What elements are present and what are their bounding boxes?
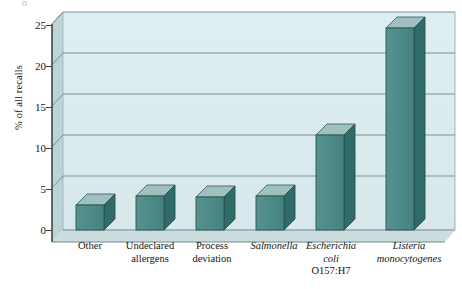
bar-escherichia-coli[interactable] xyxy=(316,124,355,230)
x-label-listeria-monocytogenes: Listeria monocytogenes xyxy=(356,240,462,265)
x-label-process-deviation-line2: deviation xyxy=(192,253,231,264)
x-label-listeria-monocytogenes-line2: monocytogenes xyxy=(377,253,442,264)
x-label-escherichia-coli-line1: Escherichia xyxy=(306,240,356,251)
x-label-process-deviation-line1: Process xyxy=(196,240,228,251)
bar-chart: o % of all recalls 25 20 15 10 5 0 xyxy=(0,0,462,289)
chart-left-wall xyxy=(52,12,63,242)
bar-other[interactable] xyxy=(76,194,115,230)
bar-process-deviation[interactable] xyxy=(196,186,235,230)
x-label-escherichia-coli-line2: coli xyxy=(323,253,339,264)
x-label-other-line1: Other xyxy=(78,240,102,251)
bar-listeria-monocytogenes[interactable] xyxy=(386,17,425,230)
x-label-undeclared-allergens-line2: allergens xyxy=(131,253,169,264)
bar-undeclared-allergens[interactable] xyxy=(136,185,175,230)
bar-salmonella[interactable] xyxy=(256,185,295,230)
x-label-listeria-monocytogenes-line1: Listeria xyxy=(393,240,426,251)
x-axis-labels: Other Undeclared allergens Process devia… xyxy=(0,234,462,289)
x-label-escherichia-coli-line3: O157:H7 xyxy=(311,265,350,276)
x-label-undeclared-allergens-line1: Undeclared xyxy=(126,240,174,251)
